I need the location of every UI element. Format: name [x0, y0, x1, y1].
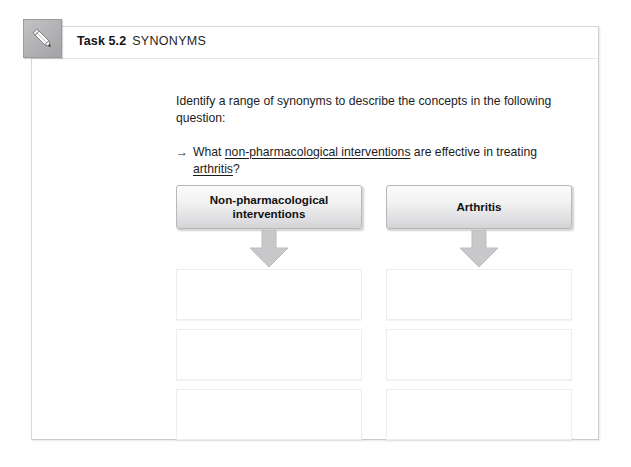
- task-body: Identify a range of synonyms to describe…: [32, 59, 598, 441]
- task-card: Task 5.2SYNONYMS Identify a range of syn…: [31, 26, 599, 440]
- answer-box[interactable]: [176, 329, 362, 380]
- arrow-right-icon: →: [176, 144, 192, 161]
- concept-header-label: Arthritis: [448, 200, 509, 214]
- question-term-2: arthritis: [193, 162, 233, 176]
- concept-header-box: Arthritis: [386, 185, 572, 229]
- answer-box[interactable]: [386, 329, 572, 380]
- instruction-text: Identify a range of synonyms to describe…: [176, 93, 566, 126]
- answer-box[interactable]: [176, 389, 362, 440]
- question-text: What non-pharmacological interventions a…: [193, 144, 571, 177]
- task-number: Task 5.2: [77, 34, 126, 48]
- down-arrow-icon: [176, 229, 362, 269]
- task-name: SYNONYMS: [132, 34, 206, 48]
- question-row: → What non-pharmacological interventions…: [176, 144, 571, 177]
- concept-columns: Non-pharmacological interventions Arthri…: [176, 185, 572, 435]
- concept-header-box: Non-pharmacological interventions: [176, 185, 362, 229]
- question-term-1: non-pharmacological interventions: [225, 145, 411, 159]
- down-arrow-icon: [386, 229, 572, 269]
- task-header: Task 5.2SYNONYMS: [32, 27, 598, 59]
- question-middle: are effective in treating: [410, 145, 536, 159]
- answer-box[interactable]: [176, 269, 362, 320]
- concept-column-right: Arthritis: [386, 185, 572, 449]
- pencil-icon: [23, 19, 62, 58]
- answer-box[interactable]: [386, 269, 572, 320]
- concept-column-left: Non-pharmacological interventions: [176, 185, 362, 449]
- page-title: Task 5.2SYNONYMS: [77, 34, 206, 48]
- answer-box[interactable]: [386, 389, 572, 440]
- question-suffix: ?: [233, 162, 240, 176]
- question-prefix: What: [193, 145, 225, 159]
- concept-header-label: Non-pharmacological interventions: [177, 193, 361, 221]
